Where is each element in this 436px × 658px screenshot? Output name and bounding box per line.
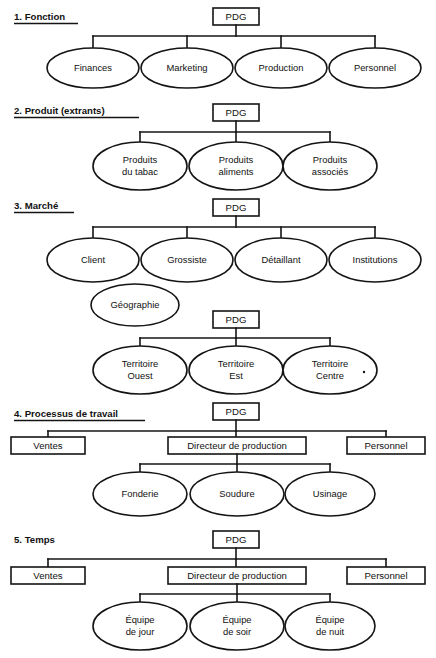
- section-produit: 2. Produit (extrants) PDG Produits du ta…: [14, 104, 377, 190]
- node-detaillant[interactable]: Détaillant: [235, 238, 327, 282]
- node-label: Personnel: [364, 570, 407, 581]
- node-label: PDG: [226, 107, 247, 118]
- node-produits-associes[interactable]: Produits associés: [283, 142, 377, 190]
- node-label-line2: aliments: [219, 166, 254, 177]
- node-label-line2: de soir: [223, 626, 251, 637]
- node-label-line2: Est: [229, 370, 243, 381]
- section-marche: 3. Marché PDG Client Grossiste Détaillan…: [14, 199, 421, 394]
- node-finances[interactable]: Finances: [47, 48, 139, 88]
- node-equipe-de-jour[interactable]: Équipe de jour: [93, 602, 187, 650]
- section-heading-produit: 2. Produit (extrants): [14, 105, 105, 116]
- node-pdg-marche-territoires[interactable]: PDG: [213, 311, 259, 328]
- node-pdg-produit[interactable]: PDG: [213, 104, 259, 121]
- node-label-line1: Produits: [123, 154, 158, 165]
- node-pdg-fonction[interactable]: PDG: [213, 8, 259, 25]
- node-label-line1: Territoire: [312, 358, 348, 369]
- scan-artifact-dot: [363, 371, 365, 373]
- connectors-processus-sub: [140, 454, 330, 474]
- node-equipe-de-soir[interactable]: Équipe de soir: [190, 602, 284, 650]
- node-personnel-processus[interactable]: Personnel: [347, 437, 425, 454]
- node-label: Client: [81, 254, 105, 265]
- node-pdg-processus[interactable]: PDG: [213, 403, 259, 420]
- node-label: Ventes: [33, 440, 63, 451]
- node-label: Finances: [74, 62, 112, 73]
- org-chart-diagram: 1. Fonction PDG Finances Marketing Pro: [0, 0, 436, 658]
- node-territoire-ouest[interactable]: Territoire Ouest: [93, 346, 187, 394]
- node-client[interactable]: Client: [47, 238, 139, 282]
- node-label: Fonderie: [121, 488, 158, 499]
- node-soudure[interactable]: Soudure: [190, 472, 284, 516]
- connectors-fonction: [93, 25, 375, 48]
- node-territoire-est[interactable]: Territoire Est: [189, 346, 283, 394]
- node-label-line1: Produits: [313, 154, 348, 165]
- node-label: Personnel: [354, 62, 396, 73]
- node-label: Production: [259, 62, 304, 73]
- node-label: Grossiste: [167, 254, 207, 265]
- node-produits-aliments[interactable]: Produits aliments: [189, 142, 283, 190]
- node-directeur-de-production-temps[interactable]: Directeur de production: [168, 567, 306, 584]
- node-personnel-fonction[interactable]: Personnel: [329, 48, 421, 88]
- node-marketing[interactable]: Marketing: [141, 48, 233, 88]
- node-equipe-de-nuit[interactable]: Équipe de nuit: [285, 602, 375, 650]
- node-label: Usinage: [313, 488, 347, 499]
- node-label: Directeur de production: [187, 440, 287, 451]
- connectors-processus: [48, 420, 386, 437]
- connectors-produit: [140, 121, 330, 142]
- node-produits-du-tabac[interactable]: Produits du tabac: [93, 142, 187, 190]
- node-personnel-temps[interactable]: Personnel: [347, 567, 425, 584]
- node-label-line2: Ouest: [127, 370, 152, 381]
- section-heading-temps: 5. Temps: [14, 534, 55, 545]
- node-label-line1: Équipe: [125, 614, 154, 625]
- node-geographie[interactable]: Géographie: [91, 284, 179, 326]
- node-grossiste[interactable]: Grossiste: [141, 238, 233, 282]
- node-territoire-centre[interactable]: Territoire Centre: [283, 346, 377, 394]
- node-ventes-processus[interactable]: Ventes: [11, 437, 85, 454]
- node-label-line2: associés: [312, 166, 349, 177]
- section-temps: 5. Temps PDG Ventes Directeur de product…: [11, 531, 425, 650]
- node-label: Détaillant: [261, 254, 300, 265]
- section-heading-processus: 4. Processus de travail: [14, 408, 118, 419]
- connectors-marche: [93, 216, 375, 239]
- node-label: Ventes: [33, 570, 63, 581]
- node-directeur-de-production-processus[interactable]: Directeur de production: [168, 437, 306, 454]
- node-usinage[interactable]: Usinage: [285, 472, 375, 516]
- node-label: Personnel: [364, 440, 407, 451]
- node-fonderie[interactable]: Fonderie: [93, 472, 187, 516]
- node-label-line2: de jour: [126, 626, 155, 637]
- connectors-marche-territoires: [140, 328, 330, 348]
- node-pdg-temps[interactable]: PDG: [213, 531, 259, 548]
- node-institutions[interactable]: Institutions: [329, 238, 421, 282]
- node-label: PDG: [226, 11, 247, 22]
- section-heading-fonction: 1. Fonction: [14, 11, 65, 22]
- node-label-line1: Territoire: [218, 358, 254, 369]
- connectors-temps-sub: [140, 584, 330, 604]
- node-label: PDG: [226, 314, 247, 325]
- connectors-temps: [48, 548, 386, 567]
- node-label: PDG: [226, 406, 247, 417]
- node-label-line1: Territoire: [122, 358, 158, 369]
- node-label-line2: Centre: [316, 370, 344, 381]
- node-label-line1: Équipe: [315, 614, 344, 625]
- node-label: PDG: [226, 534, 247, 545]
- node-label-line2: du tabac: [122, 166, 158, 177]
- section-heading-marche: 3. Marché: [14, 200, 58, 211]
- node-label: Géographie: [111, 299, 160, 310]
- node-production[interactable]: Production: [235, 48, 327, 88]
- node-label-line2: de nuit: [316, 626, 345, 637]
- node-label: PDG: [226, 202, 247, 213]
- node-label-line1: Produits: [219, 154, 254, 165]
- node-pdg-marche[interactable]: PDG: [213, 199, 259, 216]
- node-ventes-temps[interactable]: Ventes: [11, 567, 85, 584]
- section-fonction: 1. Fonction PDG Finances Marketing Pro: [14, 8, 421, 88]
- section-processus: 4. Processus de travail PDG Ventes Direc…: [11, 403, 425, 516]
- node-label-line1: Équipe: [222, 614, 251, 625]
- node-label: Directeur de production: [187, 570, 287, 581]
- node-label: Institutions: [353, 254, 398, 265]
- node-label: Marketing: [166, 62, 207, 73]
- node-label: Soudure: [219, 488, 254, 499]
